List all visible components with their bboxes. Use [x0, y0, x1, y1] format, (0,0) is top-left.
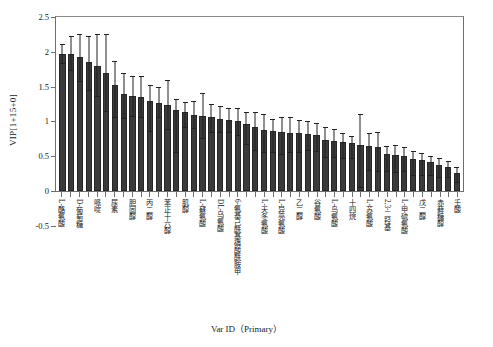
error-bar	[342, 133, 343, 159]
y-tick-label: 1.5	[38, 82, 49, 92]
x-tick	[242, 192, 251, 197]
bar-slot	[452, 17, 461, 191]
x-label-slot	[444, 199, 453, 311]
bar-slot	[198, 17, 207, 191]
x-label-slot: 十四烷	[347, 199, 356, 311]
bar-slot	[303, 17, 312, 191]
error-bar	[307, 121, 308, 150]
bar-slot	[84, 17, 93, 191]
x-label-slot: L-鸟氨酸	[330, 199, 339, 311]
error-bar	[193, 101, 194, 129]
bar-slot	[102, 17, 111, 191]
x-tick	[189, 192, 198, 197]
bar-slot	[154, 17, 163, 191]
x-label-slot: D-葡萄糖	[75, 199, 84, 311]
x-tick	[418, 192, 427, 197]
error-bar	[88, 36, 89, 92]
error-bar	[281, 117, 282, 156]
bar-slot	[426, 17, 435, 191]
error-bar	[360, 114, 361, 188]
x-label-slot: DL-乌氨酸	[215, 199, 224, 311]
bar-slot	[76, 17, 85, 191]
x-tick	[101, 192, 110, 197]
x-label-slot	[189, 199, 198, 311]
x-tick	[119, 192, 128, 197]
bar-slot	[330, 17, 339, 191]
x-label-slot	[251, 199, 260, 311]
error-bar	[334, 129, 335, 158]
bar-slot	[435, 17, 444, 191]
bar-slot	[444, 17, 453, 191]
x-label-slot	[207, 199, 216, 311]
x-tick	[207, 192, 216, 197]
error-bar	[439, 158, 440, 177]
error-bar	[351, 136, 352, 159]
x-category-label: 丙二醇	[145, 199, 153, 220]
x-category-label: L-鸟氨酸	[330, 199, 338, 227]
x-category-label: L-蘇氨酸	[198, 199, 206, 227]
x-label-slot: 哌啶	[92, 199, 101, 311]
error-bar	[237, 108, 238, 136]
error-bar	[158, 87, 159, 118]
y-tick-label: 0.5	[38, 151, 49, 161]
error-bar	[448, 161, 449, 178]
x-tick	[295, 192, 304, 197]
x-label-slot	[66, 199, 75, 311]
x-tick	[444, 192, 453, 197]
x-category-label: L-异亮氨酸	[277, 199, 285, 234]
x-tick	[198, 192, 207, 197]
bar-slot	[382, 17, 391, 191]
x-label-slot: 肌醇	[180, 199, 189, 311]
x-category-label: 壬酸	[453, 199, 461, 213]
x-tick	[453, 192, 462, 197]
x-category-label: 尿素	[110, 199, 118, 213]
x-label-slot	[136, 199, 145, 311]
x-tick	[347, 192, 356, 197]
error-bar	[325, 127, 326, 158]
error-bar	[316, 123, 317, 152]
bar-slot	[251, 17, 260, 191]
x-tick	[321, 192, 330, 197]
x-label-slot	[101, 199, 110, 311]
bar-slot	[128, 17, 137, 191]
y-tick-label: -0.5	[36, 221, 49, 231]
x-tick	[435, 192, 444, 197]
x-tick	[374, 192, 383, 197]
x-label-slot	[374, 199, 383, 311]
x-label-slot: 壬酸	[453, 199, 462, 311]
x-label-slot	[286, 199, 295, 311]
x-category-label: L-天冬氨酸	[260, 199, 268, 234]
x-category-label: D-葡萄糖	[75, 199, 83, 228]
error-bar	[167, 80, 168, 130]
x-axis-category-labels: L-酪氨酸D-葡萄糖哌啶尿素胆固醇丙二醇苯正十六醇肌醇L-蘇氨酸DL-乌氨酸6-…	[55, 199, 464, 311]
x-category-label: 赤藓糖醇	[436, 199, 444, 227]
x-label-slot	[321, 199, 330, 311]
error-bar	[413, 151, 414, 175]
x-category-label: 2,3-二羟基	[383, 199, 391, 231]
x-label-slot	[83, 199, 92, 311]
x-category-label: 哌啶	[93, 199, 101, 213]
error-bar	[202, 93, 203, 139]
x-tick	[57, 192, 66, 197]
bar-slot	[216, 17, 225, 191]
x-label-slot: L-甲硫氨酸	[400, 199, 409, 311]
bar-slot	[119, 17, 128, 191]
x-category-label: 十四烷	[348, 199, 356, 220]
x-label-slot	[426, 199, 435, 311]
bar-slot	[295, 17, 304, 191]
bar-slot	[339, 17, 348, 191]
x-tick	[251, 192, 260, 197]
x-tick	[382, 192, 391, 197]
error-bar	[290, 117, 291, 154]
x-tick	[365, 192, 374, 197]
x-tick	[145, 192, 154, 197]
x-label-slot: 2,3-二羟基	[382, 199, 391, 311]
bar	[68, 54, 74, 191]
bar-slot	[347, 17, 356, 191]
error-bar	[114, 61, 115, 118]
x-label-slot: 赤藓糖醇	[435, 199, 444, 311]
x-category-label: L-苏氨酸	[365, 199, 373, 227]
x-category-label: 6-氨基己酰基磷酸酰胺甲	[233, 199, 241, 275]
error-bar	[395, 145, 396, 173]
x-tick	[303, 192, 312, 197]
